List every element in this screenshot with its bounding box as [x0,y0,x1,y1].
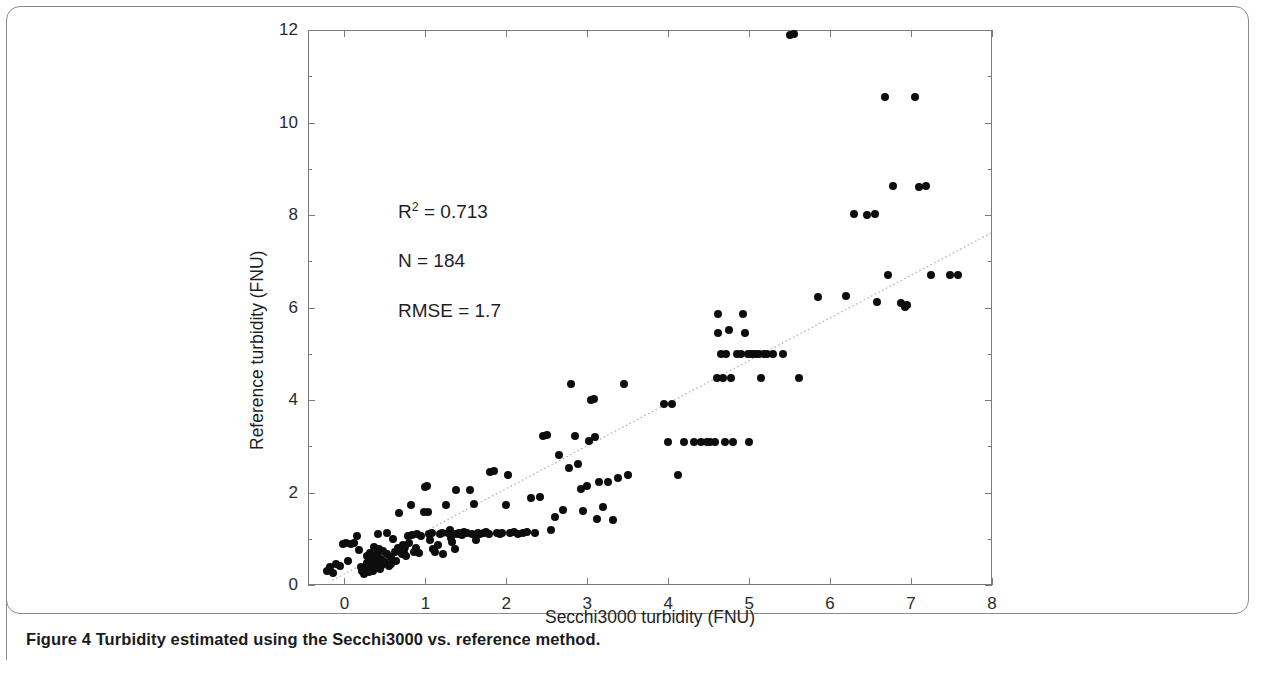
data-point [527,494,535,502]
annotation-sample-size: N = 184 [398,250,465,272]
data-point [873,298,881,306]
x-axis-tick-top [911,30,912,37]
data-point [954,271,962,279]
data-point [729,438,737,446]
data-point [680,438,688,446]
data-point [725,326,733,334]
x-axis-tick-top [668,30,669,37]
data-point [555,451,563,459]
data-point [395,509,403,517]
y-axis-minor-tick [308,169,312,170]
y-axis-tick-label: 10 [262,113,298,133]
y-axis-minor-tick [308,261,312,262]
y-axis-tick [308,400,315,401]
data-point [850,210,858,218]
data-point [927,271,935,279]
x-axis-tick [506,578,507,585]
x-axis-tick [587,578,588,585]
data-point [863,211,871,219]
data-point [595,478,603,486]
data-point [604,478,612,486]
x-axis-tick [668,578,669,585]
y-axis-tick-right [985,30,992,31]
y-axis-minor-tick [308,539,312,540]
x-axis-tick [749,578,750,585]
data-point [504,471,512,479]
y-axis-minor-tick [308,354,312,355]
y-axis-tick-right [985,215,992,216]
data-point [614,474,622,482]
data-point [922,182,930,190]
data-point [442,501,450,509]
y-axis-tick [308,308,315,309]
data-point [946,271,954,279]
data-point [329,569,337,577]
y-axis-tick [308,215,315,216]
x-axis-tick [425,578,426,585]
data-point [779,350,787,358]
data-point [498,529,506,537]
x-axis-tick-top [992,30,993,37]
x-axis-tick-top [830,30,831,37]
data-point [565,464,573,472]
data-point [593,515,601,523]
r-squared-value: = 0.713 [419,201,488,222]
data-point [903,301,911,309]
data-point [485,530,493,538]
data-point [719,374,727,382]
scatter-plot: 012345678024681012 Secchi3000 turbidity … [0,0,1261,614]
data-point [668,400,676,408]
r-squared-exponent: 2 [412,200,419,214]
annotation-r-squared: R2 = 0.713 [398,200,488,223]
x-axis-title: Secchi3000 turbidity (FNU) [308,607,992,628]
y-axis-minor-tick [308,446,312,447]
y-axis-tick-label: 0 [262,575,298,595]
data-point [466,486,474,494]
data-point [591,433,599,441]
data-point [871,210,879,218]
data-point [620,380,628,388]
data-point [543,431,551,439]
data-point [660,400,668,408]
data-point [424,508,432,516]
data-point [402,552,410,560]
data-point [757,374,765,382]
r-squared-symbol: R [398,201,412,222]
data-point [336,562,344,570]
y-axis-title: Reference turbidity (FNU) [247,251,268,450]
y-axis-tick [308,493,315,494]
data-point [842,292,850,300]
data-point [392,557,400,565]
data-point [889,182,897,190]
x-axis-tick [911,578,912,585]
data-point [911,93,919,101]
data-point [434,541,442,549]
data-point [795,374,803,382]
data-point [502,501,510,509]
data-point [428,529,436,537]
y-axis-tick-right [985,493,992,494]
y-axis-tick [308,585,315,586]
data-point [470,500,478,508]
data-point [814,293,822,301]
data-point [714,310,722,318]
data-point [531,529,539,537]
data-point [722,350,730,358]
figure-page: 012345678024681012 Secchi3000 turbidity … [0,0,1261,674]
data-point [389,535,397,543]
data-point [571,432,579,440]
x-axis-tick-top [344,30,345,37]
y-axis-minor-tick-right [988,446,992,447]
data-point [599,503,607,511]
data-point [579,507,587,515]
annotation-rmse: RMSE = 1.7 [398,300,501,322]
data-point [567,380,575,388]
data-point [790,30,798,38]
data-point [451,545,459,553]
data-point [674,471,682,479]
data-point [745,438,753,446]
y-axis-tick-label: 12 [262,20,298,40]
data-point [374,530,382,538]
data-point [727,374,735,382]
data-point [344,557,352,565]
